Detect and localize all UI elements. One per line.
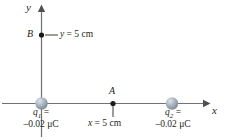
charge-label-q1: q1 = –0.02 μC	[8, 108, 74, 130]
charge-q2-value: –0.02 μC	[140, 120, 206, 130]
charge-q2-equals: =	[173, 107, 181, 117]
point-a-annotation-value: = 5 cm	[92, 118, 121, 128]
x-axis-label: x	[212, 105, 217, 117]
point-b-dot	[39, 32, 44, 37]
point-b-annotation-value: = 5 cm	[64, 29, 93, 39]
y-axis-arrowhead	[38, 5, 45, 13]
charge-q1-value: –0.02 μC	[8, 120, 74, 130]
point-b-label: B	[27, 29, 33, 40]
x-axis-arrowhead	[203, 100, 211, 107]
charge-label-q2: q2 = –0.02 μC	[140, 108, 206, 130]
point-a-dot	[110, 101, 115, 106]
point-a-annotation: x = 5 cm	[88, 119, 121, 129]
point-b-annotation: y = 5 cm	[60, 30, 93, 40]
y-axis-label: y	[26, 2, 31, 14]
point-a-label: A	[109, 86, 115, 97]
physics-diagram: y x B A y = 5 cm x = 5 cm q1 = –0.02 μC …	[0, 0, 225, 139]
charge-q1-equals: =	[41, 107, 49, 117]
